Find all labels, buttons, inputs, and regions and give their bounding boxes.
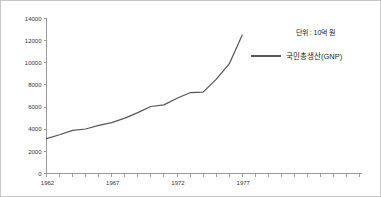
y-axis <box>44 19 47 174</box>
y-tick-label: 10000 <box>25 60 42 66</box>
x-tick-label: 1977 <box>237 180 251 186</box>
chart-legend: 단위 : 10억 원 국민총생산(GNP) <box>251 27 376 61</box>
y-tick-label: 4000 <box>28 126 42 132</box>
series-line-gnp <box>47 35 243 139</box>
x-tick-label: 1962 <box>41 180 55 186</box>
x-tick-label: 1967 <box>106 180 120 186</box>
legend-line-swatch <box>251 52 281 60</box>
x-tick-label: 1972 <box>171 180 185 186</box>
data-series <box>47 35 243 139</box>
y-tick-label: 14000 <box>25 16 42 22</box>
y-tick-label: 6000 <box>28 104 42 110</box>
y-tick-label: 12000 <box>25 38 42 44</box>
x-axis <box>47 174 362 177</box>
y-tick-label: 8000 <box>28 82 42 88</box>
chart-screenshot: 02000400060008000100001200014000 1962196… <box>0 0 381 197</box>
y-tick-label: 2000 <box>28 149 42 155</box>
y-tick-label: 0 <box>38 171 42 177</box>
unit-note-label: 단위 : 10억 원 <box>255 27 376 37</box>
x-tick-labels: 1962196719721977 <box>41 180 251 186</box>
legend-label-gnp: 국민총생산(GNP) <box>286 50 342 61</box>
y-tick-labels: 02000400060008000100001200014000 <box>25 16 42 177</box>
legend-entry-gnp: 국민총생산(GNP) <box>251 50 376 61</box>
